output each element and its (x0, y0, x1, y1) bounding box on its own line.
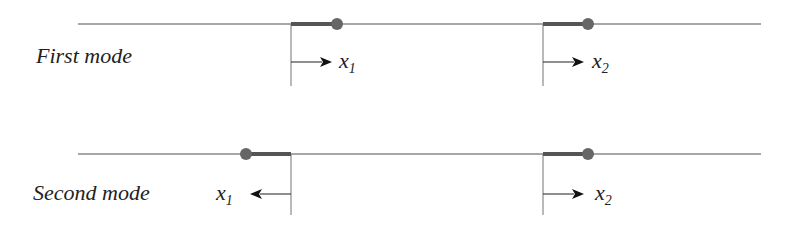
mass-icon (240, 148, 252, 160)
mode-shapes-diagram: First mode Second mode x1 x2 x1 x2 (0, 0, 788, 232)
x1-label: x1 (216, 180, 233, 209)
first-mode-graphic (78, 18, 761, 86)
mass-icon (582, 18, 594, 30)
x1-label: x1 (339, 48, 356, 77)
mass-icon (582, 148, 594, 160)
first-mode-label: First mode (36, 43, 132, 69)
mass-icon (331, 18, 343, 30)
x2-label: x2 (595, 180, 612, 209)
x2-label: x2 (592, 48, 609, 77)
second-mode-label: Second mode (33, 180, 150, 206)
second-mode-graphic (78, 148, 761, 215)
